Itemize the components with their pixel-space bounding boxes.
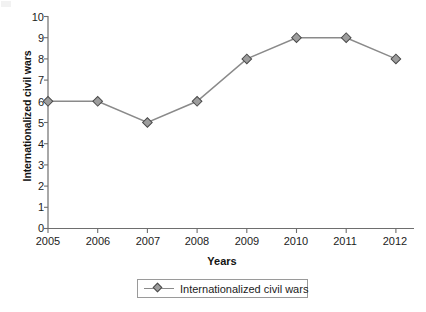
data-point-2010	[292, 33, 302, 43]
line-chart-figure: Internationalized civil wars 10 9 8 7 6 …	[0, 0, 426, 312]
legend-entry-label: Internationalized civil wars	[180, 283, 308, 295]
data-point-2007	[143, 118, 153, 128]
data-point-2012	[391, 54, 401, 64]
data-point-2006	[93, 96, 103, 106]
legend-marker-icon	[142, 282, 176, 296]
x-axis-title: Years	[48, 255, 396, 267]
chart-legend: Internationalized civil wars	[137, 279, 308, 298]
x-axis-ticks	[48, 229, 396, 234]
data-point-2011	[341, 33, 351, 43]
series-line-internationalized-civil-wars	[48, 38, 396, 123]
legend-diamond-icon	[153, 282, 163, 292]
data-point-2005	[43, 96, 53, 106]
